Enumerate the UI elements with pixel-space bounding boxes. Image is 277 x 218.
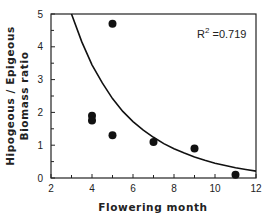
y-axis-ticks: 012345 <box>37 9 55 184</box>
r-squared-annotation: R2 =0.719 <box>197 26 246 40</box>
x-tick-label: 10 <box>209 183 221 194</box>
x-axis-title: Flowering month <box>98 201 207 213</box>
data-point <box>109 131 117 139</box>
y-axis-title: Hipogeous / Epigeous Biomass ratio <box>4 26 30 166</box>
data-point <box>109 20 117 28</box>
x-tick-label: 12 <box>250 183 262 194</box>
y-tick-label: 1 <box>37 140 43 151</box>
y-axis-title-line2: Biomass ratio <box>18 52 30 141</box>
x-tick-label: 8 <box>171 183 177 194</box>
y-tick-label: 0 <box>37 173 43 184</box>
y-tick-label: 2 <box>37 107 43 118</box>
data-points <box>88 20 240 179</box>
y-axis-title-line1: Hipogeous / Epigeous <box>4 26 16 166</box>
data-point <box>232 171 240 179</box>
r-label: R <box>197 28 205 40</box>
r-value: =0.719 <box>209 28 246 40</box>
y-tick-label: 5 <box>37 9 43 20</box>
x-tick-label: 4 <box>89 183 95 194</box>
data-point <box>191 144 199 152</box>
x-axis-ticks: 24681012 <box>48 174 262 194</box>
y-tick-label: 4 <box>37 41 43 52</box>
scatter-chart: 012345 24681012 Flowering month Hipogeou… <box>0 0 277 218</box>
data-point <box>88 117 96 125</box>
x-tick-label: 2 <box>48 183 54 194</box>
y-tick-label: 3 <box>37 74 43 85</box>
x-tick-label: 6 <box>130 183 136 194</box>
data-point <box>150 138 158 146</box>
